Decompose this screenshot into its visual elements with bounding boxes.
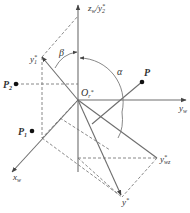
p1-label: P1	[18, 126, 27, 138]
p2-label: P2	[3, 79, 12, 91]
ywz-line	[78, 100, 157, 158]
point-p1	[30, 129, 35, 134]
alpha-arc-lower	[118, 112, 123, 138]
p-line	[92, 81, 143, 124]
ystar-label: y*	[121, 197, 129, 207]
beta-label: β	[58, 47, 64, 58]
points	[14, 80, 145, 134]
coordinate-diagram: zw/y*2 y*1 β α Or* P P2 P1 yw xw y*wz y*	[0, 0, 190, 213]
dash-ywz-to-ystar	[122, 158, 157, 197]
z-axis-label: zw/y*2	[87, 3, 105, 14]
y1-label: y*1	[29, 54, 37, 65]
p-label: P	[144, 67, 151, 78]
point-p2	[14, 82, 19, 87]
labels: zw/y*2 y*1 β α Or* P P2 P1 yw xw y*wz y*	[3, 3, 187, 207]
y-axis-label: yw	[178, 103, 187, 114]
x-axis-label: xw	[12, 172, 21, 183]
ywz-label: y*wz	[159, 154, 171, 165]
alpha-label: α	[117, 66, 123, 77]
point-p	[140, 80, 145, 85]
y1-axis	[42, 57, 78, 100]
dash-x-to-ystar-1	[42, 138, 122, 197]
dash-x-to-ystar-3	[60, 118, 110, 150]
origin-label: Or*	[81, 87, 94, 99]
axes	[12, 5, 186, 195]
